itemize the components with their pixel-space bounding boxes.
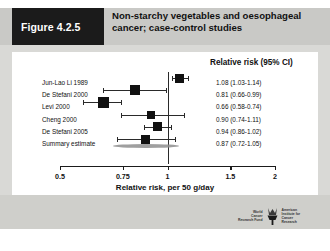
study-label: Jun-Lao Li 1989 xyxy=(42,79,88,86)
table-row: Cheng 20000.90 (0.74-1.11) xyxy=(12,115,318,127)
x-axis-tick-label: 0.5 xyxy=(55,172,65,181)
table-row: De Stefani 20050.94 (0.86-1.02) xyxy=(12,127,318,139)
x-axis-tick xyxy=(123,166,124,170)
risk-value: 0.81 (0.66-0.99) xyxy=(216,91,261,98)
x-axis-tick-label: 2 xyxy=(273,172,277,181)
x-axis-tick xyxy=(168,166,169,170)
x-axis-tick xyxy=(60,166,61,170)
study-label: Cheng 2000 xyxy=(42,116,77,123)
logo-left-text: World Cancer Research Fund xyxy=(237,210,263,223)
x-axis-tick xyxy=(275,166,276,170)
study-label: Summary estimate xyxy=(42,140,95,147)
table-row: De Stefani 20000.81 (0.66-0.99) xyxy=(12,90,318,102)
study-label: De Stefani 2000 xyxy=(42,91,88,98)
figure-title: Non-starchy vegetables and oesophageal c… xyxy=(112,10,322,34)
table-row: Levi 20000.66 (0.58-0.74) xyxy=(12,102,318,114)
wcrf-aicr-logo: World Cancer Research Fund American Inst… xyxy=(232,205,312,227)
logo-right-text: American Institute for Cancer Research xyxy=(282,208,308,225)
x-axis-tick-label: 1 xyxy=(166,172,170,181)
table-row: Jun-Lao Li 19891.08 (1.03-1.14) xyxy=(12,78,318,90)
chart-panel: Relative risk (95% CI) Jun-Lao Li 19891.… xyxy=(12,52,318,195)
x-axis-title: Relative risk, per 50 g/day xyxy=(12,183,318,192)
x-axis-tick xyxy=(230,166,231,170)
x-axis-tick-label: 0.75 xyxy=(116,172,130,181)
logo-right-line3: Cancer Research xyxy=(282,216,308,224)
study-label: Levi 2000 xyxy=(42,103,70,110)
table-row: Summary estimate0.87 (0.72-1.05) xyxy=(12,139,318,151)
risk-value: 0.66 (0.58-0.74) xyxy=(216,103,261,110)
torch-icon xyxy=(265,206,280,226)
risk-value: 0.94 (0.86-1.02) xyxy=(216,128,261,135)
study-rows: Jun-Lao Li 19891.08 (1.03-1.14)De Stefan… xyxy=(12,78,318,154)
risk-value: 0.87 (0.72-1.05) xyxy=(216,140,261,147)
figure-number-badge: Figure 4.2.5 xyxy=(12,8,104,45)
x-axis-tick-label: 1.5 xyxy=(225,172,235,181)
value-column-header: Relative risk (95% CI) xyxy=(210,58,293,67)
risk-value: 0.90 (0.74-1.11) xyxy=(216,116,261,123)
figure-number-label: Figure 4.2.5 xyxy=(21,21,81,33)
logo-left-line3: Research Fund xyxy=(237,218,263,222)
study-label: De Stefani 2005 xyxy=(42,128,88,135)
risk-value: 1.08 (1.03-1.14) xyxy=(216,79,261,86)
figure-container: Figure 4.2.5 Non-starchy vegetables and … xyxy=(0,0,330,251)
bottom-margin xyxy=(0,229,330,251)
top-margin xyxy=(0,0,330,8)
